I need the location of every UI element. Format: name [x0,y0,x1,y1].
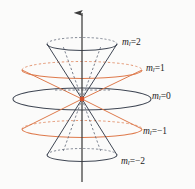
cone-label-mlneg2-value: −2 [135,156,145,166]
cone-label-ml0: ml=0 [152,92,171,102]
angular-momentum-cone-diagram: ml=2 ml=1 ml=0 ml=−1 ml=−2 [0,0,195,189]
cone-label-ml0-symbol: m [152,91,159,101]
cone-label-mlneg1-symbol: m [143,126,150,136]
cone-label-ml1: ml=1 [146,64,165,74]
cone-label-mlneg1: ml=−1 [143,127,167,137]
cone-label-mlneg2-symbol: m [121,156,128,166]
cone-label-mlneg2: ml=−2 [121,157,145,167]
cone-label-ml2-value: 2 [136,37,141,47]
origin-dot [80,97,85,102]
cone-label-ml2: ml=2 [122,38,141,48]
cone-label-ml1-value: 1 [160,63,165,73]
cone-label-ml0-value: 0 [166,91,171,101]
cone-label-ml1-symbol: m [146,63,153,73]
cone-label-mlneg1-value: −1 [157,126,167,136]
cone-label-ml2-symbol: m [122,37,129,47]
